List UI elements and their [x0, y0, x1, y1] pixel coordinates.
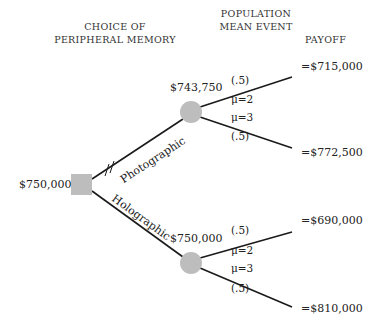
decision-node-value: $750,000 — [19, 178, 72, 191]
decision-tree-lines — [0, 0, 370, 331]
decision-node — [71, 174, 92, 195]
header-choice: CHOICE OF PERIPHERAL MEMORY — [50, 20, 180, 46]
chance-node-holographic — [180, 252, 202, 274]
header-payoff: PAYOFF — [305, 33, 346, 46]
photographic-prob-1: (.5) — [231, 74, 249, 86]
photographic-prob-2: (.5) — [231, 130, 249, 142]
photographic-event-1: μ=2 — [231, 93, 253, 105]
photographic-node-value: $743,750 — [170, 81, 223, 94]
holographic-event-2: μ=3 — [231, 262, 253, 274]
header-event-line1: POPULATION — [218, 7, 294, 20]
holographic-event-1: μ=2 — [231, 244, 253, 256]
payoff-holographic-2: =$810,000 — [301, 302, 363, 315]
header-choice-line2: PERIPHERAL MEMORY — [50, 33, 180, 46]
header-choice-line1: CHOICE OF — [50, 20, 180, 33]
photographic-event-2: μ=3 — [231, 111, 253, 123]
holographic-prob-2: (.5) — [231, 282, 249, 294]
payoff-photographic-1: =$715,000 — [301, 60, 363, 73]
header-event-line2: MEAN EVENT — [218, 20, 294, 33]
payoff-photographic-2: =$772,500 — [301, 146, 363, 159]
holographic-prob-1: (.5) — [231, 224, 249, 236]
payoff-holographic-1: =$690,000 — [301, 214, 363, 227]
chance-node-photographic — [180, 101, 202, 123]
header-event: POPULATION MEAN EVENT — [218, 7, 294, 33]
holographic-node-value: $750,000 — [170, 232, 223, 245]
